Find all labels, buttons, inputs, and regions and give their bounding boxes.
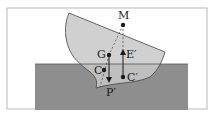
floating-body-diagram: M G E′ C C′ P′ (0, 0, 211, 113)
label-p-prime: P′ (106, 86, 116, 99)
label-m: M (118, 9, 129, 22)
label-c: C (94, 64, 102, 77)
point-c (102, 68, 106, 72)
label-e-prime: E′ (126, 48, 137, 61)
point-c-prime (121, 75, 125, 79)
point-m (121, 23, 125, 27)
point-g (107, 53, 111, 57)
label-g: G (97, 48, 106, 61)
label-c-prime: C′ (127, 71, 138, 84)
